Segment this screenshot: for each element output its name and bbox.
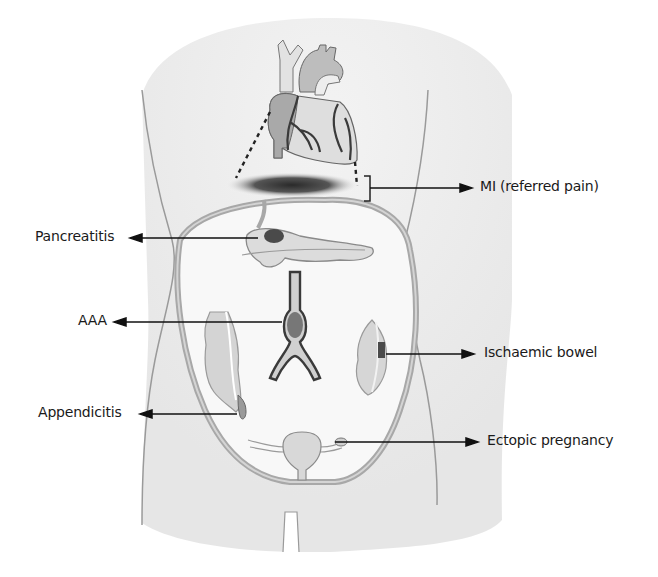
label-ectopic-pregnancy: Ectopic pregnancy [487,432,613,448]
label-pancreatitis: Pancreatitis [35,228,114,244]
anatomy-diagram [0,0,658,577]
label-appendicitis: Appendicitis [38,404,121,420]
label-ischaemic-bowel: Ischaemic bowel [484,344,597,360]
label-mi-referred-pain: MI (referred pain) [480,178,599,194]
label-aaa: AAA [78,312,107,328]
